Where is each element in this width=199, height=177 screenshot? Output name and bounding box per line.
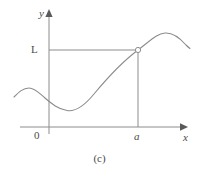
x-axis-arrowhead (180, 123, 188, 131)
y-axis-label: y (39, 8, 44, 19)
x-axis (20, 123, 188, 131)
limit-value-label: L (31, 44, 38, 55)
function-curve (14, 33, 190, 111)
open-point-marker (135, 47, 140, 52)
approach-point-label: a (134, 131, 140, 142)
y-axis-arrowhead (45, 9, 52, 17)
y-axis (45, 9, 52, 134)
figure-caption: (c) (0, 153, 199, 164)
limit-graph-svg (0, 0, 199, 177)
origin-label: 0 (34, 130, 40, 141)
x-axis-label: x (183, 132, 188, 143)
figure-container: y x L 0 a (c) (0, 0, 199, 177)
